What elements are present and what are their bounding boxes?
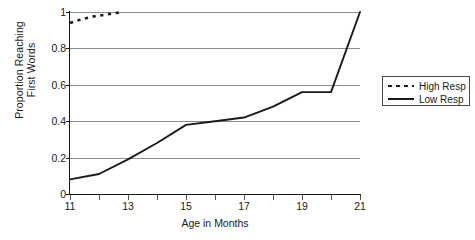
x-tick-label: 21: [345, 200, 375, 212]
series-line-low-resp: [70, 12, 360, 179]
series-line-high-resp: [70, 12, 122, 23]
x-tick-mark: [273, 195, 274, 200]
x-tick-mark: [331, 195, 332, 200]
y-tick-label: 1: [32, 7, 66, 17]
legend-label-high-resp: High Resp: [419, 81, 466, 92]
plot-area: [70, 12, 360, 194]
y-tick-label: 0.6: [32, 80, 66, 90]
y-tick-label: 0.8: [32, 43, 66, 53]
legend-dashed-line-icon: [387, 81, 415, 91]
legend-label-low-resp: Low Resp: [419, 94, 463, 105]
x-tick-mark: [99, 195, 100, 200]
y-tick-label: 0.2: [32, 153, 66, 163]
legend-solid-line-icon: [387, 94, 415, 104]
x-tick-label: 17: [229, 200, 259, 212]
y-tick-label: 0: [32, 189, 66, 199]
y-tick-label: 0.4: [32, 116, 66, 126]
x-tick-label: 15: [171, 200, 201, 212]
legend-item-high-resp: High Resp: [387, 80, 465, 92]
legend-item-low-resp: Low Resp: [387, 93, 465, 105]
x-tick-mark: [157, 195, 158, 200]
x-tick-mark: [215, 195, 216, 200]
series-lines: [70, 12, 360, 194]
y-axis-title-line-1: Proportion Reaching: [12, 21, 24, 119]
x-tick-label: 19: [287, 200, 317, 212]
chart-legend: High Resp Low Resp: [382, 76, 470, 106]
x-tick-label: 11: [55, 200, 85, 212]
x-tick-label: 13: [113, 200, 143, 212]
chart-figure: Proportion Reaching First Words 00.20.40…: [0, 0, 475, 240]
x-axis-title: Age in Months: [70, 217, 360, 229]
